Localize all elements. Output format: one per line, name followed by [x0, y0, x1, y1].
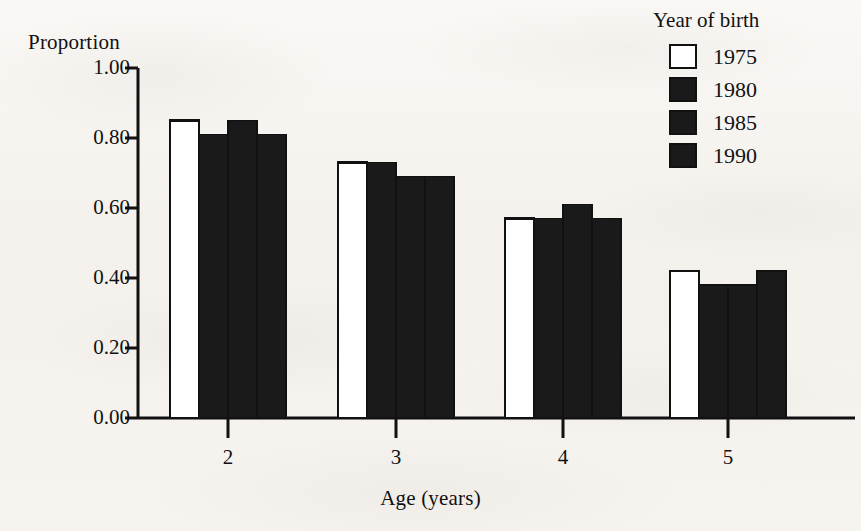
chart-plot-area [0, 0, 861, 531]
bar-1980-age-3 [367, 163, 396, 419]
chart-page: Proportion Age (years) 1.00 0.80 0.60 0.… [0, 0, 861, 531]
bar-1975-age-2 [170, 121, 199, 419]
bar-1985-age-3 [396, 177, 425, 419]
bar-1985-age-2 [228, 121, 257, 419]
bar-1980-age-5 [699, 285, 728, 418]
bar-1975-age-5 [670, 271, 699, 418]
bar-1985-age-4 [563, 205, 592, 419]
plot-layer: Proportion Age (years) 1.00 0.80 0.60 0.… [0, 0, 861, 531]
bar-1980-age-4 [534, 219, 563, 419]
bar-1990-age-2 [257, 135, 286, 419]
bar-1975-age-3 [338, 163, 367, 419]
bar-1975-age-4 [505, 219, 534, 419]
bar-1990-age-5 [757, 271, 786, 418]
bar-1990-age-4 [592, 219, 621, 419]
bar-1985-age-5 [728, 285, 757, 418]
bar-1980-age-2 [199, 135, 228, 419]
bar-1990-age-3 [425, 177, 454, 419]
